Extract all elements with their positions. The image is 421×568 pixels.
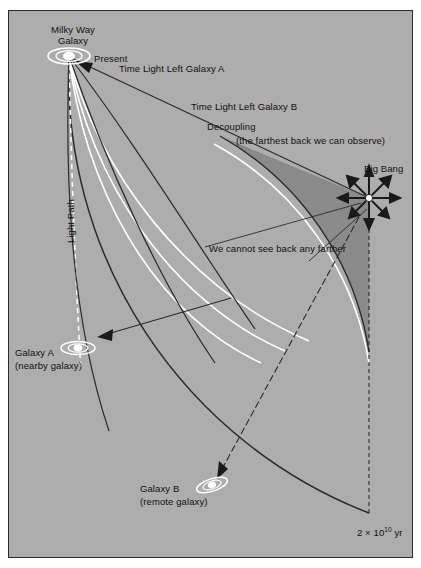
galaxy-a-arrow [97, 298, 231, 341]
galaxy-a-label-line1: Galaxy A [15, 347, 54, 358]
big-bang-label: Big Bang [364, 163, 403, 174]
time-scale-label: 2 × 1010 yr [357, 524, 403, 538]
diagram-panel: Milky Way Galaxy Present Time Light Left… [8, 10, 413, 558]
time-scale-prefix: 2 × 10 [357, 527, 384, 538]
galaxy-b-label-line1: Galaxy B [140, 483, 179, 494]
galaxy-a-icon [61, 342, 95, 355]
decoupling-label: Decoupling [207, 121, 256, 132]
light-path-label: Light Path [65, 199, 76, 243]
time-light-left-galaxy-a-label: Time Light Left Galaxy A [119, 63, 225, 74]
decoupling-note-label: (the farthest back we can observe) [236, 135, 385, 146]
cosmology-light-cone-figure: Milky Way Galaxy Present Time Light Left… [0, 0, 421, 568]
time-scale-unit: yr [392, 527, 403, 538]
time-light-left-galaxy-b-label: Time Light Left Galaxy B [191, 101, 297, 112]
galaxy-b-arrow [217, 217, 359, 479]
milky-way-galaxy-icon [48, 48, 90, 64]
milky-way-label-line2: Galaxy [27, 35, 119, 46]
galaxy-a-label-line2: (nearby galaxy) [15, 360, 82, 371]
milky-way-label-line1: Milky Way [27, 24, 119, 35]
time-scale-exponent: 10 [384, 526, 391, 533]
diagram-canvas [9, 11, 412, 557]
galaxy-b-icon [195, 474, 229, 496]
cannot-see-label: We cannot see back any farther [209, 243, 346, 254]
galaxy-b-label-line2: (remote galaxy) [140, 496, 208, 507]
